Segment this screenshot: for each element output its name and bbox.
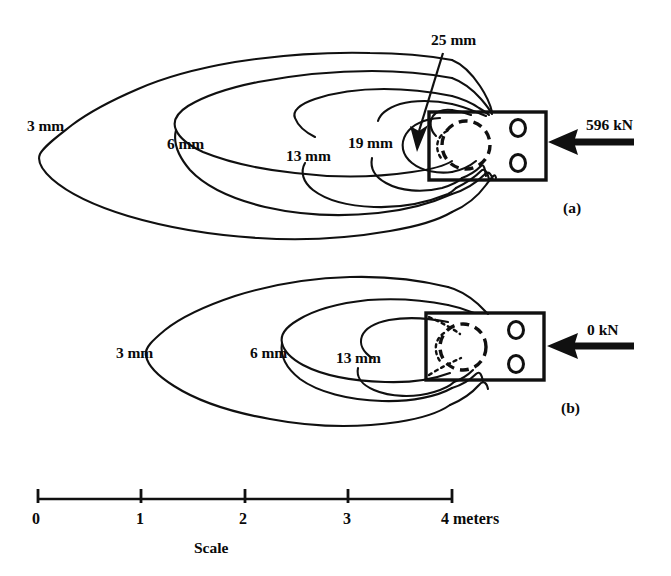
thrust-arrow-head-panel-b: [547, 333, 578, 359]
contour-label-13mm-panel-b: 13 mm: [336, 350, 381, 366]
load-label-panel-b: 0 kN: [587, 322, 618, 338]
panel-label-b: (b): [561, 400, 580, 416]
contour-label-3mm-panel-b: 3 mm: [116, 345, 153, 361]
figure-root: 3 mm 6 mm 13 mm 19 mm 25 mm 596 kN (a) 3…: [0, 0, 671, 576]
panel-label-a: (a): [563, 200, 581, 216]
contour-label-25mm-panel-a: 25 mm: [431, 32, 476, 48]
access-port-lower-panel-b: [509, 356, 524, 373]
load-label-panel-a: 596 kN: [586, 117, 633, 133]
access-port-upper-panel-a: [511, 120, 526, 137]
thrust-arrow-head-panel-a: [548, 129, 578, 155]
panel-a-graphics: [39, 53, 634, 239]
machine-body-panel-a: [429, 112, 546, 180]
contour-label-3mm-panel-a: 3 mm: [27, 118, 64, 134]
scale-tick-label-0: 0: [32, 511, 40, 527]
figure-canvas: [0, 0, 671, 576]
contour-label-6mm-panel-a: 6 mm: [167, 136, 204, 152]
access-port-lower-panel-a: [511, 155, 526, 172]
contour-label-6mm-panel-b: 6 mm: [250, 345, 287, 361]
scale-end-label: 4 meters: [441, 511, 499, 527]
cutterhead-dotted-chord-lower-panel-b: [429, 358, 461, 375]
access-port-upper-panel-b: [509, 322, 524, 339]
contour-label-13mm-panel-a: 13 mm: [286, 148, 331, 164]
scale-bar-graphics: [37, 489, 453, 503]
scale-tick-label-2: 2: [239, 511, 247, 527]
scale-tick-label-1: 1: [136, 511, 144, 527]
scale-caption: Scale: [194, 540, 228, 556]
cutterhead-circle-panel-b: [440, 324, 486, 370]
scale-tick-label-3: 3: [343, 511, 351, 527]
contour-label-19mm-panel-a: 19 mm: [348, 135, 393, 151]
